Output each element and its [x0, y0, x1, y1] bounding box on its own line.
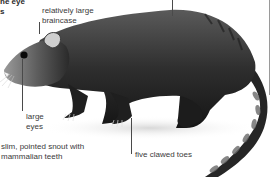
leader-back — [172, 0, 173, 16]
label-cutoff-top: ne eye s — [0, 0, 25, 16]
label-braincase: relatively large braincase — [42, 6, 94, 25]
head — [4, 40, 69, 87]
label-toes: five clawed toes — [135, 150, 192, 160]
label-braincase-line2: braincase — [42, 16, 94, 26]
label-snout-line1: slim, pointed snout with — [1, 142, 84, 152]
eye — [20, 51, 27, 58]
label-cutoff-line2: s — [0, 7, 25, 17]
label-snout: slim, pointed snout with mammalian teeth — [1, 142, 84, 161]
label-eyes-line1: large — [26, 112, 44, 122]
leader-braincase — [39, 22, 40, 34]
label-snout-line2: mammalian teeth — [1, 152, 84, 162]
label-eyes: large eyes — [26, 112, 44, 131]
frame-edge-line — [269, 0, 270, 95]
label-eyes-line2: eyes — [26, 122, 44, 132]
label-braincase-line1: relatively large — [42, 6, 94, 16]
label-cutoff-line1: ne eye — [0, 0, 25, 7]
diagram-canvas: ne eye s relatively large braincase larg… — [0, 0, 275, 177]
leader-toes — [131, 118, 132, 154]
leader-eyes — [22, 59, 23, 111]
